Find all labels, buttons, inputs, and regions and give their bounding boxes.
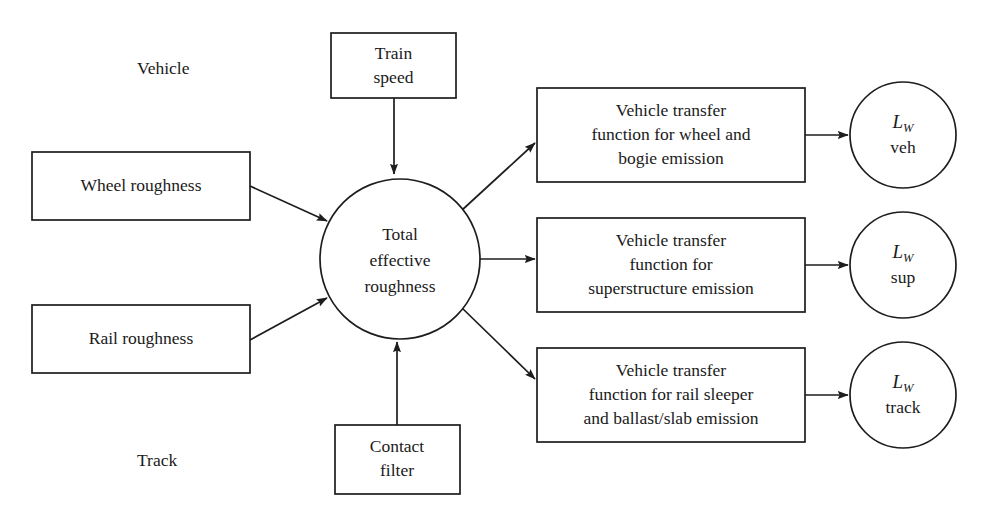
edge-wheel-roughness-to-roughness	[250, 186, 327, 221]
contact-filter-label-line-2: filter	[380, 460, 414, 480]
vehicle-transfer-rail-sleeper-line-1: Vehicle transfer	[616, 360, 726, 380]
rail-roughness-label: Rail roughness	[89, 328, 194, 348]
vehicle-transfer-wheel-bogie-line-2: function for wheel and	[592, 124, 751, 144]
vehicle-transfer-rail-sleeper-line-2: function for rail sleeper	[589, 384, 754, 404]
node-vehicle-transfer-rail-sleeper[interactable]: Vehicle transfer function for rail sleep…	[537, 348, 805, 442]
node-lw-veh[interactable]: LW veh	[850, 82, 956, 188]
lw-track-circle[interactable]	[850, 342, 956, 448]
node-vehicle-transfer-superstructure[interactable]: Vehicle transfer function for superstruc…	[537, 218, 805, 312]
vehicle-transfer-superstructure-line-1: Vehicle transfer	[616, 230, 726, 250]
edge-roughness-to-wheel-bogie	[461, 143, 535, 211]
section-label-vehicle: Vehicle	[137, 58, 190, 78]
lw-track-symbol-subscript: W	[903, 381, 915, 395]
edge-rail-roughness-to-roughness	[250, 298, 327, 340]
lw-sup-symbol-subscript: W	[903, 251, 915, 265]
lw-sup-qualifier: sup	[891, 267, 916, 287]
edge-roughness-to-rail-sleeper	[461, 307, 535, 379]
node-train-speed[interactable]: Train speed	[331, 33, 456, 98]
contact-filter-label-line-1: Contact	[370, 436, 425, 456]
train-speed-label-line-1: Train	[375, 43, 413, 63]
total-effective-roughness-line-1: Total	[382, 224, 418, 244]
vehicle-transfer-superstructure-line-2: function for	[629, 254, 712, 274]
lw-track-symbol-letter: L	[892, 371, 904, 392]
train-speed-label-line-2: speed	[374, 67, 414, 87]
wheel-roughness-label: Wheel roughness	[80, 175, 201, 195]
lw-veh-circle[interactable]	[850, 82, 956, 188]
node-vehicle-transfer-wheel-bogie[interactable]: Vehicle transfer function for wheel and …	[537, 88, 805, 182]
node-lw-track[interactable]: LW track	[850, 342, 956, 448]
flow-diagram: Vehicle Track Train speed Wheel roughnes…	[0, 0, 994, 518]
node-wheel-roughness[interactable]: Wheel roughness	[32, 152, 250, 220]
vehicle-transfer-rail-sleeper-line-3: and ballast/slab emission	[584, 408, 759, 428]
section-label-track: Track	[137, 450, 177, 470]
node-contact-filter[interactable]: Contact filter	[335, 425, 460, 494]
node-total-effective-roughness[interactable]: Total effective roughness	[320, 179, 480, 339]
vehicle-transfer-wheel-bogie-line-3: bogie emission	[618, 148, 724, 168]
lw-veh-symbol-subscript: W	[903, 121, 915, 135]
node-lw-sup[interactable]: LW sup	[850, 212, 956, 318]
vehicle-transfer-wheel-bogie-line-1: Vehicle transfer	[616, 100, 726, 120]
node-rail-roughness[interactable]: Rail roughness	[32, 305, 250, 373]
total-effective-roughness-line-3: roughness	[365, 276, 436, 296]
vehicle-transfer-superstructure-line-3: superstructure emission	[588, 278, 754, 298]
lw-veh-symbol-letter: L	[892, 111, 904, 132]
lw-track-qualifier: track	[886, 397, 921, 417]
total-effective-roughness-line-2: effective	[370, 250, 431, 270]
lw-sup-symbol-letter: L	[892, 241, 904, 262]
diagram-canvas: Vehicle Track Train speed Wheel roughnes…	[0, 0, 994, 518]
lw-sup-circle[interactable]	[850, 212, 956, 318]
lw-veh-qualifier: veh	[890, 137, 916, 157]
